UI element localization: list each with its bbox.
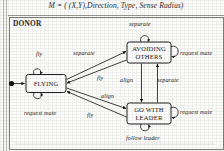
edge-label-fly-top-left: fly [36,51,42,57]
self-loop-flying-fly[interactable] [34,69,41,75]
edge-label-separate-top: separate [129,21,151,27]
state-label-avoiding-line1: AVOIDING [127,45,171,53]
scan-smudge [14,142,214,145]
diagram-page: M = ( (X,Y),Direction, Type, Sense Radiu… [0,0,224,151]
edge-label-align-mid-lower: align [101,93,114,99]
edge-label-follow-leader-bottom: follow leader [126,135,160,141]
initial-state-dot [9,81,14,86]
edge-label-request-mate-right-top: request mate [180,50,212,56]
edge-label-request-mate-right-bottom: request mate [180,109,212,115]
self-loop-avoiding-separate[interactable] [141,36,149,42]
self-loop-avoiding-request-mate[interactable] [171,46,178,56]
state-label-leader-line1: GO WITH [127,106,171,114]
state-label-flying: FLYING [26,80,66,88]
edge-leader-to-flying-fly[interactable] [67,92,127,118]
state-label-avoiding-line2: OTHERS [127,53,171,61]
self-loop-leader-request-mate[interactable] [171,107,178,117]
state-machine-canvas [0,0,224,151]
edge-label-separate-mid-right: separate [157,77,179,83]
edge-label-request-mate-bottom-left: request mate [24,110,56,116]
edge-label-separate-top-left: separate [73,50,95,56]
edge-label-fly-lower: fly [87,112,93,118]
edge-label-align-mid-upper: align [120,77,133,83]
edge-flying-to-leader-align[interactable] [67,88,127,109]
edge-label-fly-mid: fly [97,75,103,81]
state-label-leader-line2: LEADER [127,114,171,122]
self-loop-flying-request-mate[interactable] [34,93,42,99]
self-loop-leader-follow-leader[interactable] [141,124,149,131]
